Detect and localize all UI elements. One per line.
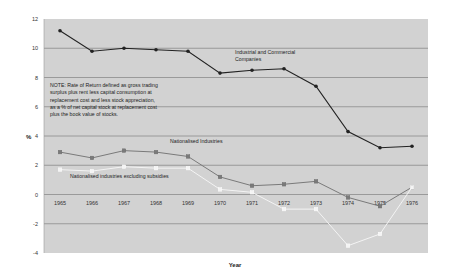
- series-annotation: Nationalised industries excluding subsid…: [70, 173, 169, 179]
- data-point: [90, 156, 94, 160]
- series-annotation: Industrial and Commercial: [235, 49, 295, 55]
- data-point: [346, 130, 350, 134]
- data-point: [410, 144, 414, 148]
- data-point: [218, 71, 222, 75]
- data-point: [186, 49, 190, 53]
- note-line: as a % of net capital stock at replaceme…: [50, 104, 158, 110]
- line-chart: -4-2024681012 19651966196719681969197019…: [0, 0, 450, 276]
- x-tick-label: 1971: [246, 200, 258, 206]
- data-point: [58, 29, 62, 33]
- data-point: [282, 207, 286, 211]
- data-point: [378, 232, 382, 236]
- data-point: [154, 166, 158, 170]
- data-point: [186, 155, 190, 159]
- data-point: [250, 68, 254, 72]
- note-line: NOTE: Rate of Return defined as gross tr…: [50, 82, 158, 88]
- data-point: [122, 46, 126, 50]
- y-tick-label: 4: [35, 133, 38, 139]
- y-axis-ticks: -4-2024681012: [32, 16, 38, 256]
- x-tick-label: 1973: [310, 200, 322, 206]
- data-point: [250, 191, 254, 195]
- data-point: [346, 244, 350, 248]
- x-tick-label: 1970: [214, 200, 226, 206]
- y-tick-label: 6: [35, 104, 38, 110]
- data-point: [282, 67, 286, 71]
- data-point: [186, 166, 190, 170]
- y-tick-label: 8: [35, 75, 38, 81]
- y-tick-label: -4: [33, 250, 38, 256]
- data-point: [314, 84, 318, 88]
- data-point: [218, 175, 222, 179]
- data-point: [314, 207, 318, 211]
- series-annotation: Nationalised Industries: [170, 138, 223, 144]
- y-tick-label: 2: [35, 162, 38, 168]
- x-tick-label: 1967: [118, 200, 130, 206]
- data-point: [122, 149, 126, 153]
- y-tick-label: 0: [35, 192, 38, 198]
- data-point: [378, 204, 382, 208]
- data-point: [154, 48, 158, 52]
- y-tick-label: -2: [33, 221, 38, 227]
- x-tick-label: 1976: [406, 200, 418, 206]
- x-tick-label: 1974: [342, 200, 354, 206]
- y-tick-label: 10: [32, 45, 38, 51]
- data-point: [410, 185, 414, 189]
- data-point: [122, 165, 126, 169]
- data-point: [282, 182, 286, 186]
- data-point: [314, 180, 318, 184]
- data-point: [378, 146, 382, 150]
- x-tick-label: 1965: [54, 200, 66, 206]
- y-axis-label: %: [26, 134, 32, 140]
- note-line: replacement cost and less stock apprecia…: [50, 97, 155, 103]
- x-tick-label: 1972: [278, 200, 290, 206]
- data-point: [58, 150, 62, 154]
- series-annotation: Companies: [235, 56, 262, 62]
- x-axis-label: Year: [229, 262, 242, 268]
- x-tick-label: 1968: [150, 200, 162, 206]
- x-tick-label: 1966: [86, 200, 98, 206]
- data-point: [218, 188, 222, 192]
- data-point: [346, 196, 350, 200]
- x-tick-label: 1969: [182, 200, 194, 206]
- y-tick-label: 12: [32, 16, 38, 22]
- data-point: [90, 49, 94, 53]
- data-point: [154, 150, 158, 154]
- note-line: surplus plus rent less capital consumpti…: [50, 89, 152, 95]
- data-point: [58, 168, 62, 172]
- note-line: plus the book value of stocks.: [50, 111, 118, 117]
- data-point: [250, 184, 254, 188]
